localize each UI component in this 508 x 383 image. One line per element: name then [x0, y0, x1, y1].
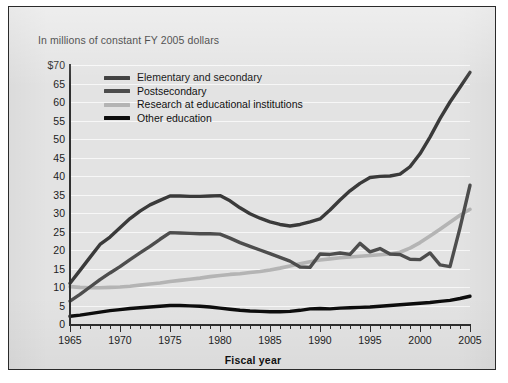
x-tick-major	[420, 325, 421, 332]
y-axis-tick-labels: 05101520253035404550556065$70	[9, 7, 65, 370]
legend-item: Postsecondary	[104, 85, 303, 99]
chart-legend: Elementary and secondaryPostsecondaryRes…	[104, 71, 303, 125]
y-axis-line	[69, 64, 71, 325]
x-tick-label: 1975	[158, 334, 181, 346]
x-tick-minor	[210, 325, 211, 329]
x-tick-minor	[240, 325, 241, 329]
legend-swatch-icon	[104, 89, 130, 93]
legend-item: Elementary and secondary	[104, 71, 303, 85]
legend-swatch-icon	[104, 103, 130, 107]
chart-figure: In millions of constant FY 2005 dollars …	[8, 6, 496, 370]
x-tick-minor	[260, 325, 261, 329]
x-tick-minor	[290, 325, 291, 329]
y-tick-label: 25	[53, 226, 65, 238]
x-tick-minor	[440, 325, 441, 329]
x-tick-minor	[390, 325, 391, 329]
y-tick-label: 5	[59, 300, 65, 312]
x-tick-minor	[90, 325, 91, 329]
x-tick-label: 1995	[358, 334, 381, 346]
x-tick-minor	[190, 325, 191, 329]
x-tick-minor	[430, 325, 431, 329]
x-tick-minor	[280, 325, 281, 329]
x-tick-minor	[340, 325, 341, 329]
x-tick-minor	[110, 325, 111, 329]
x-tick-major	[370, 325, 371, 332]
y-tick-label: 55	[53, 115, 65, 127]
y-tick-label: $70	[47, 59, 65, 71]
legend-label: Other education	[137, 112, 212, 126]
x-tick-major	[220, 325, 221, 332]
x-tick-minor	[180, 325, 181, 329]
y-tick-label: 40	[53, 170, 65, 182]
x-tick-major	[270, 325, 271, 332]
series-line	[70, 185, 470, 301]
legend-label: Research at educational institutions	[137, 98, 303, 112]
x-tick-label: 2005	[458, 334, 481, 346]
y-tick-label: 20	[53, 244, 65, 256]
x-tick-minor	[200, 325, 201, 329]
series-line	[70, 296, 470, 316]
y-tick-label: 15	[53, 263, 65, 275]
x-tick-minor	[360, 325, 361, 329]
x-tick-minor	[230, 325, 231, 329]
x-tick-label: 2000	[408, 334, 431, 346]
y-tick-label: 10	[53, 281, 65, 293]
x-tick-label: 1965	[58, 334, 81, 346]
x-tick-minor	[380, 325, 381, 329]
x-tick-minor	[310, 325, 311, 329]
x-tick-minor	[80, 325, 81, 329]
x-tick-major	[170, 325, 171, 332]
legend-item: Other education	[104, 112, 303, 126]
x-tick-minor	[130, 325, 131, 329]
y-tick-label: 65	[53, 78, 65, 90]
chart-subtitle: In millions of constant FY 2005 dollars	[38, 34, 219, 46]
y-tick-label: 30	[53, 207, 65, 219]
x-tick-minor	[400, 325, 401, 329]
x-tick-major	[320, 325, 321, 332]
x-tick-minor	[150, 325, 151, 329]
y-tick-label: 60	[53, 96, 65, 108]
y-tick-label: 35	[53, 189, 65, 201]
y-tick-label: 50	[53, 133, 65, 145]
x-axis-title: Fiscal year	[9, 354, 496, 366]
y-tick-label: 0	[59, 318, 65, 330]
x-tick-minor	[450, 325, 451, 329]
x-tick-label: 1970	[108, 334, 131, 346]
x-tick-major	[120, 325, 121, 332]
x-tick-major	[470, 325, 471, 332]
legend-swatch-icon	[104, 116, 130, 120]
x-tick-minor	[350, 325, 351, 329]
x-tick-label: 1990	[308, 334, 331, 346]
x-tick-major	[70, 325, 71, 332]
x-tick-minor	[460, 325, 461, 329]
x-tick-minor	[250, 325, 251, 329]
x-tick-minor	[300, 325, 301, 329]
x-tick-minor	[330, 325, 331, 329]
x-tick-label: 1985	[258, 334, 281, 346]
x-tick-minor	[160, 325, 161, 329]
x-tick-minor	[100, 325, 101, 329]
x-tick-label: 1980	[208, 334, 231, 346]
y-tick-label: 45	[53, 152, 65, 164]
x-tick-minor	[410, 325, 411, 329]
legend-label: Postsecondary	[137, 85, 206, 99]
legend-item: Research at educational institutions	[104, 98, 303, 112]
legend-label: Elementary and secondary	[137, 71, 262, 85]
legend-swatch-icon	[104, 76, 130, 80]
x-tick-minor	[140, 325, 141, 329]
